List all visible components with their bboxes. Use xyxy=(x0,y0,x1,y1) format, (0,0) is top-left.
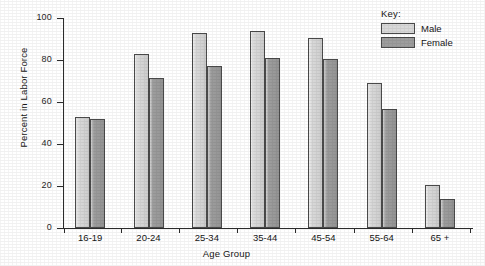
x-axis-title: Age Group xyxy=(0,248,485,259)
bar-male-2024 xyxy=(134,54,149,228)
legend-item-male: Male xyxy=(381,23,453,34)
bar-female-1619 xyxy=(90,119,105,228)
y-axis-tick xyxy=(57,144,63,145)
x-axis-tick-label: 45-54 xyxy=(295,232,351,243)
x-axis-tick-label: 55-64 xyxy=(354,232,410,243)
y-axis-tick xyxy=(57,228,63,229)
y-axis-tick xyxy=(57,186,63,187)
bar-female-65+ xyxy=(440,199,455,228)
bar-male-2534 xyxy=(192,33,207,228)
x-axis-title-text: Age Group xyxy=(203,248,250,259)
x-axis-tick-label: 65 + xyxy=(412,232,468,243)
x-axis-tick-label: 20-24 xyxy=(121,232,177,243)
x-axis-tick xyxy=(470,228,471,233)
bar-female-4554 xyxy=(323,59,338,228)
bar-male-3544 xyxy=(250,31,265,228)
bar-male-4554 xyxy=(308,38,323,228)
y-axis-title: Percent in Labor Force xyxy=(18,23,29,173)
bar-female-2534 xyxy=(207,66,222,228)
y-axis-tick xyxy=(57,102,63,103)
legend-label-female: Female xyxy=(421,37,453,48)
legend-swatch-female-icon xyxy=(381,37,415,48)
y-axis-line xyxy=(63,18,64,228)
y-axis-tick xyxy=(57,18,63,19)
x-axis-tick-label: 25-34 xyxy=(179,232,235,243)
legend-swatch-male-icon xyxy=(381,23,415,34)
y-axis-tick-label: 100 xyxy=(18,13,52,22)
legend-item-female: Female xyxy=(381,37,453,48)
x-axis-tick-label: 35-44 xyxy=(237,232,293,243)
y-axis-tick-label: 20 xyxy=(18,181,52,190)
legend-label-male: Male xyxy=(421,23,442,34)
x-axis-tick xyxy=(64,228,65,233)
bar-female-3544 xyxy=(265,58,280,228)
chart-figure: 020406080100 16-1920-2425-3435-4445-5455… xyxy=(0,0,485,266)
bar-male-1619 xyxy=(75,117,90,228)
bar-female-5564 xyxy=(382,109,397,228)
bar-female-2024 xyxy=(149,78,164,228)
bar-male-65+ xyxy=(425,185,440,228)
y-axis-tick-label: 0 xyxy=(18,223,52,232)
x-axis-tick-label: 16-19 xyxy=(62,232,118,243)
y-axis-tick xyxy=(57,60,63,61)
legend-title: Key: xyxy=(381,8,453,19)
legend: Key: Male Female xyxy=(381,8,453,51)
bar-male-5564 xyxy=(367,83,382,228)
